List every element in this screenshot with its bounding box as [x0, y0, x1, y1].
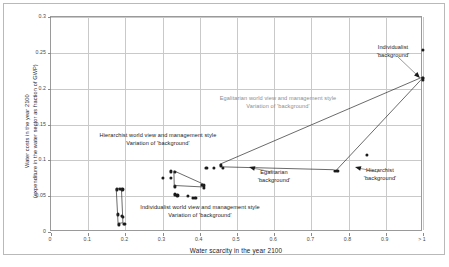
individualist-background-line1: Individualist [378, 44, 409, 50]
gridline-horizontal [51, 196, 421, 197]
egalitarian-background-line2: 'background' [258, 177, 291, 183]
y-axis-tick-label: 0.3 [38, 13, 46, 19]
egalitarian-worldview-line2: Variation of 'background' [246, 103, 309, 109]
data-point [121, 188, 124, 191]
x-axis-tick-label: 0.9 [381, 236, 389, 242]
egalitarian-background-label: Egalitarian 'background' [258, 168, 291, 184]
gridline-vertical [311, 17, 312, 230]
data-point [212, 166, 215, 169]
hierarchist-worldview-label: Hierarchist world view and management st… [100, 131, 217, 147]
y-axis-tick-label: 0.15 [36, 121, 47, 127]
egalitarian-worldview-line1: Egalitarian world view and management st… [220, 95, 337, 101]
egalitarian-worldview-label: Egalitarian world view and management st… [220, 94, 337, 110]
gridline-horizontal [51, 89, 421, 90]
y-axis-tickmark [48, 160, 51, 161]
data-point [170, 176, 173, 179]
x-axis-tick-label: 0.2 [121, 236, 129, 242]
y-axis-tick-label: 0.05 [36, 192, 47, 198]
chart-figure: Water costs in the year 2100 (expenditur… [0, 0, 449, 267]
y-axis-tickmark [48, 53, 51, 54]
data-point [205, 166, 208, 169]
data-point [161, 176, 164, 179]
individualist-worldview-line2: Variation of 'background' [168, 212, 231, 218]
gridline-horizontal [51, 160, 421, 161]
individualist-worldview-line1: Individualist world view and management … [140, 204, 260, 210]
data-point [122, 215, 125, 218]
data-point [221, 166, 224, 169]
x-axis-title: Water scarcity in the year 2100 [50, 247, 422, 254]
data-point [194, 196, 197, 199]
data-point [366, 153, 369, 156]
y-axis-tickmark [48, 89, 51, 90]
x-axis-tick-label: > 1 [418, 236, 426, 242]
data-point [170, 170, 173, 173]
gridline-vertical [125, 17, 126, 230]
x-axis-tick-label: 0.1 [83, 236, 91, 242]
egalitarian-background-line1: Egalitarian [260, 169, 288, 175]
hierarchist-background-line1: Hierarchist [366, 167, 394, 173]
hierarchist-worldview-line2: Variation of 'background' [126, 140, 189, 146]
x-axis-tick-label: 0.6 [269, 236, 277, 242]
data-point [336, 169, 339, 172]
gridline-horizontal [51, 53, 421, 54]
y-axis-tickmark [48, 232, 51, 233]
gridline-vertical [237, 17, 238, 230]
x-axis-tick-label: 0.7 [307, 236, 315, 242]
hierarchist-background-line2: 'background' [364, 175, 397, 181]
y-axis-tickmark [48, 17, 51, 18]
data-point [173, 170, 176, 173]
x-axis-tick-labels: 00.10.20.30.40.50.60.70.80.9> 1 [50, 236, 422, 246]
y-axis-tick-labels: 00.050.10.150.20.250.3 [18, 16, 46, 231]
y-axis-tick-label: 0.25 [36, 49, 47, 55]
individualist-background-label: Individualist 'background' [377, 43, 410, 59]
x-axis-tick-label: 0.8 [344, 236, 352, 242]
data-point [116, 213, 119, 216]
x-axis-tick-label: 0.4 [195, 236, 203, 242]
gridline-vertical [200, 17, 201, 230]
x-axis-tick-label: 0 [49, 236, 52, 242]
gridline-vertical [88, 17, 89, 230]
y-axis-tickmark [48, 125, 51, 126]
y-axis-tick-label: 0.1 [38, 156, 46, 162]
plot-area [50, 16, 422, 231]
data-point [202, 186, 205, 189]
hierarchist-background-label: Hierarchist 'background' [364, 166, 397, 182]
gridline-horizontal [51, 125, 421, 126]
individualist-background-line2: 'background' [377, 52, 410, 58]
y-axis-tick-label: 0.2 [38, 85, 46, 91]
individualist-worldview-label: Individualist world view and management … [140, 203, 260, 219]
gridline-horizontal [51, 17, 421, 18]
gridline-vertical [349, 17, 350, 230]
y-axis-tick-label: 0 [43, 228, 46, 234]
gridline-vertical [274, 17, 275, 230]
y-axis-tickmark [48, 196, 51, 197]
data-point [117, 223, 120, 226]
x-axis-tick-label: 0.5 [232, 236, 240, 242]
x-axis-tick-label: 0.3 [158, 236, 166, 242]
hierarchist-worldview-line1: Hierarchist world view and management st… [100, 132, 217, 138]
gridline-vertical [163, 17, 164, 230]
data-point [174, 185, 177, 188]
